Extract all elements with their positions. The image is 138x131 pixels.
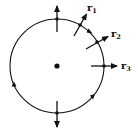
circular-motion-diagram: r1 r2 r3	[0, 0, 138, 131]
vector-r2-arrow	[86, 37, 108, 50]
label-r2: r2	[111, 28, 121, 41]
direction-arrowheads	[12, 29, 96, 100]
vector-r1-arrow	[74, 14, 87, 36]
label-r1: r1	[87, 2, 97, 15]
direction-arrow-upper-right	[87, 29, 93, 34]
center-point	[54, 63, 59, 68]
label-r3: r3	[121, 60, 131, 73]
direction-arrow-left	[12, 82, 17, 87]
